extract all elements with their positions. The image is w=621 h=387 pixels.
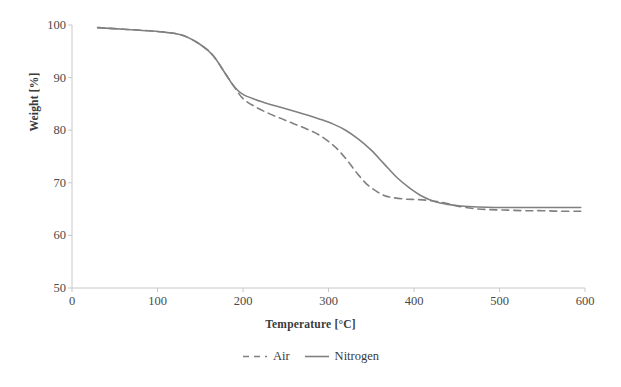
legend-swatch-nitrogen [304, 352, 330, 361]
y-axis-tick-label: 80 [32, 124, 66, 137]
plot-svg [72, 25, 585, 288]
series-line-nitrogen [98, 28, 581, 208]
x-axis-tick-label: 0 [42, 295, 102, 308]
plot-area [72, 25, 585, 288]
legend-label: Air [273, 350, 290, 363]
x-axis-tick-label: 500 [470, 295, 530, 308]
x-axis-title: Temperature [°C] [0, 318, 621, 330]
x-axis-tick-label: 200 [213, 295, 273, 308]
axis-lines [72, 25, 585, 288]
x-axis-ticks [72, 288, 585, 292]
chart-legend: AirNitrogen [0, 350, 621, 363]
x-axis-tick-labels: 0100200300400500600 [72, 295, 585, 313]
x-axis-tick-label: 300 [299, 295, 359, 308]
legend-entry-nitrogen[interactable]: Nitrogen [304, 350, 379, 363]
legend-label: Nitrogen [335, 350, 379, 363]
y-axis-tick-label: 100 [32, 19, 66, 32]
y-axis-tick-labels: 5060708090100 [26, 25, 66, 288]
legend-entry-air[interactable]: Air [242, 350, 290, 363]
x-axis-tick-label: 100 [128, 295, 188, 308]
tga-chart-figure: Weight [%] 5060708090100 010020030040050… [0, 0, 621, 387]
y-axis-tick-label: 70 [32, 177, 66, 190]
x-axis-tick-label: 400 [384, 295, 444, 308]
y-axis-tick-label: 50 [32, 282, 66, 295]
data-series-group [98, 28, 581, 212]
x-axis-tick-label: 600 [555, 295, 615, 308]
series-line-air [98, 28, 581, 212]
legend-swatch-air [242, 352, 268, 361]
y-axis-tick-label: 90 [32, 72, 66, 85]
y-axis-ticks [68, 25, 72, 288]
y-axis-tick-label: 60 [32, 229, 66, 242]
